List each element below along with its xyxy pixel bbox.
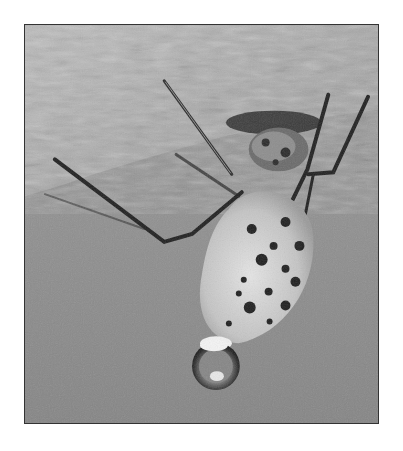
photo-frame <box>24 24 379 424</box>
insect-photo <box>25 25 378 423</box>
